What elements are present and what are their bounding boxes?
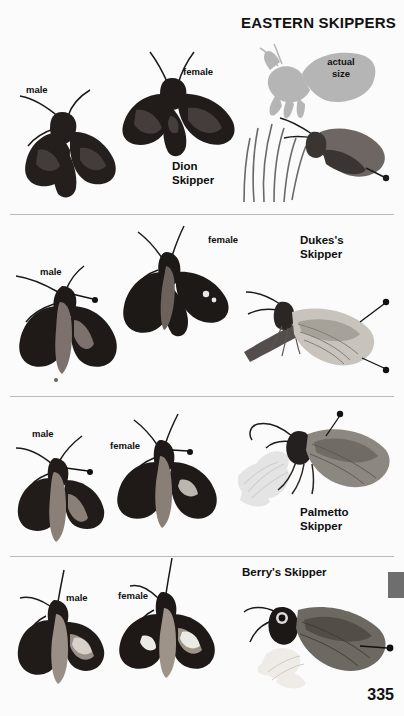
page-title: EASTERN SKIPPERS xyxy=(241,14,396,31)
species-name-berrys: Berry's Skipper xyxy=(242,566,327,580)
page-number: 335 xyxy=(367,686,394,704)
field-guide-page: EASTERN SKIPPERS actual size xyxy=(0,0,404,716)
specimen-berrys-female xyxy=(112,558,237,693)
actual-size-label: actual size xyxy=(314,56,368,80)
label-berrys-male: male xyxy=(66,592,88,603)
label-palmetto-female: female xyxy=(110,440,140,451)
specimen-dukes-female xyxy=(118,226,248,361)
section-divider-3 xyxy=(10,556,394,557)
section-divider-2 xyxy=(10,396,394,397)
species-name-palmetto: Palmetto Skipper xyxy=(300,506,349,533)
species-name-dukes: Dukes's Skipper xyxy=(300,234,344,261)
species-name-dion: Dion Skipper xyxy=(172,160,214,187)
label-dion-male: male xyxy=(26,84,48,95)
specimen-dukes-lateral xyxy=(236,278,396,383)
label-dion-female: female xyxy=(183,66,213,77)
specimen-dion-female xyxy=(116,50,246,168)
label-berrys-female: female xyxy=(118,590,148,601)
specimen-dion-lateral xyxy=(236,98,396,208)
specimen-palmetto-lateral xyxy=(228,406,396,521)
label-dukes-female: female xyxy=(208,234,238,245)
specimen-palmetto-female xyxy=(110,414,240,539)
section-divider-1 xyxy=(10,214,394,215)
label-dukes-male: male xyxy=(40,266,62,277)
label-palmetto-male: male xyxy=(32,428,54,439)
